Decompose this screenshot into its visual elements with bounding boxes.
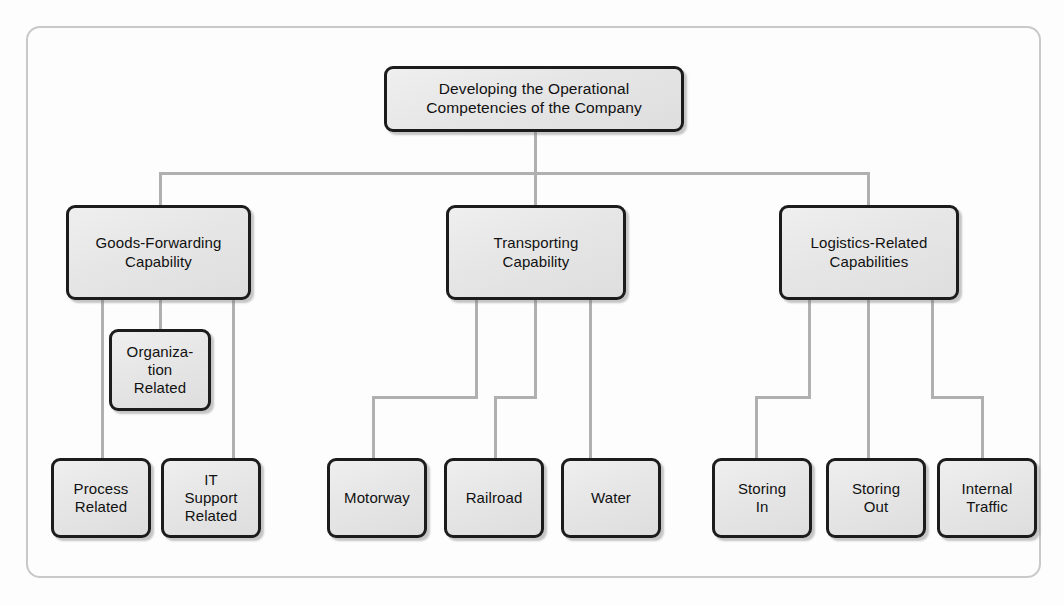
node-it-support-related[interactable]: IT Support Related [161,458,261,538]
connector-goods-to-it-support [232,298,235,460]
node-root[interactable]: Developing the Operational Competencies … [384,66,684,132]
connector-internal-traffic-stem [981,396,984,460]
node-motorway[interactable]: Motorway [327,458,427,538]
connector-goods-to-process [101,298,104,460]
connector-root-stem [534,131,537,175]
node-storing-out[interactable]: Storing Out [826,458,926,538]
node-process-related[interactable]: Process Related [51,458,151,538]
node-storing-in[interactable]: Storing In [712,458,812,538]
connector-root-to-goods-forwarding [159,172,162,207]
connector-goods-to-organization [159,298,162,330]
connector-logistics-to-storing-in-elbow [755,396,811,399]
diagram-canvas: Developing the Operational Competencies … [0,0,1064,605]
connector-transporting-to-railroad-elbow [494,396,537,399]
connector-transporting-to-motorway-elbow [372,396,478,399]
connector-transporting-to-motorway-drop [475,298,478,399]
connector-railroad-stem [494,396,497,460]
connector-root-bus [159,172,870,175]
connector-logistics-to-internal-traffic-drop [931,298,934,399]
node-water[interactable]: Water [561,458,661,538]
connector-root-to-logistics [867,172,870,207]
node-logistics-related[interactable]: Logistics-Related Capabilities [779,205,959,300]
node-railroad[interactable]: Railroad [444,458,544,538]
connector-logistics-to-storing-in-drop [808,298,811,399]
connector-storing-in-stem [755,396,758,460]
node-internal-traffic[interactable]: Internal Traffic [937,458,1037,538]
connector-logistics-to-internal-traffic-elbow [931,396,984,399]
connector-motorway-stem [372,396,375,460]
node-goods-forwarding[interactable]: Goods-Forwarding Capability [66,205,251,300]
node-organization-related[interactable]: Organiza- tion Related [109,329,211,411]
node-transporting[interactable]: Transporting Capability [446,205,626,300]
connector-transporting-to-water [589,298,592,460]
connector-root-to-transporting [534,172,537,207]
connector-transporting-to-railroad-drop [534,298,537,399]
connector-logistics-to-storing-out [867,298,870,460]
